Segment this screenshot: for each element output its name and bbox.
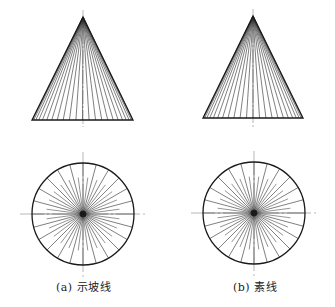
cone-generator-line <box>228 16 253 118</box>
cone-generator-line <box>253 16 278 118</box>
cone-generator-line <box>253 16 272 118</box>
cone-generator-line <box>253 16 283 118</box>
cone-projection-figure <box>0 0 335 307</box>
cone-generator-line <box>47 17 83 120</box>
radial-line-long <box>34 214 83 227</box>
radial-line-long <box>83 214 96 263</box>
cone-top-view-a <box>20 152 147 278</box>
cone-generator-line <box>223 16 253 118</box>
radial-line-long <box>241 213 254 262</box>
cone-generator-line <box>83 17 84 120</box>
radial-line-long <box>70 214 83 263</box>
caption-b: (b) 素线 <box>233 278 277 294</box>
panel-a-slope-lines <box>20 10 147 278</box>
cone-generator-line <box>52 17 83 120</box>
radial-line-long <box>83 214 132 227</box>
radial-line-long <box>205 200 254 213</box>
radial-line-long <box>254 200 303 213</box>
cone-generator-line <box>253 16 293 118</box>
cone-generator-line <box>213 16 253 118</box>
radial-line-long <box>70 165 83 214</box>
cone-generator-line <box>234 16 253 118</box>
caption-a: (a) 示坡线 <box>56 278 111 294</box>
radial-line-long <box>254 164 267 213</box>
panel-b-generator-lines <box>191 9 318 277</box>
radial-line-long <box>83 201 132 214</box>
cone-top-view-b <box>191 151 318 277</box>
cone-front-view-b <box>203 9 303 127</box>
cone-generator-line <box>83 17 123 120</box>
radial-line-long <box>83 165 96 214</box>
radial-line-long <box>205 213 254 226</box>
apex-point <box>251 210 257 216</box>
apex-point <box>80 211 86 217</box>
radial-line-long <box>34 201 83 214</box>
radial-line-long <box>254 213 267 262</box>
cone-generator-line <box>63 17 83 120</box>
cone-generator-line <box>83 17 108 120</box>
radial-line-long <box>254 213 303 226</box>
radial-line-long <box>241 164 254 213</box>
cone-front-view-a <box>32 10 133 127</box>
